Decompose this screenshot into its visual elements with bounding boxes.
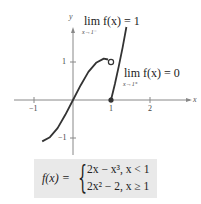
closed-dot-point — [108, 97, 113, 102]
y-axis-label: y — [69, 12, 73, 21]
x-axis-label: x — [193, 95, 197, 104]
x-tick-label-neg1: −1 — [29, 104, 38, 113]
left-brace-icon: { — [78, 161, 87, 193]
formula-lhs: f(x) = — [42, 171, 70, 186]
formula-case-1: 2x − x³, x < 1 — [87, 163, 149, 175]
x-axis-arrow-icon — [186, 98, 192, 102]
y-tick-label-1: 1 — [62, 57, 66, 66]
x-tick-label-2: 2 — [148, 104, 152, 113]
left-limit-subscript: x→1⁻ — [82, 28, 97, 35]
right-limit-label: lim f(x) = 0 — [124, 66, 180, 81]
x-tick-label-1: 1 — [109, 104, 113, 113]
y-axis-arrow-icon — [71, 27, 75, 33]
y-tick-label-neg1: −1 — [58, 133, 67, 142]
right-limit-subscript: x→1⁺ — [123, 80, 138, 87]
open-circle-point — [108, 59, 113, 64]
left-limit-label: lim f(x) = 1 — [84, 14, 140, 29]
piecewise-formula-box: f(x) = { 2x − x³, x < 1 2x² − 2, x ≥ 1 — [34, 159, 157, 198]
formula-case-2: 2x² − 2, x ≥ 1 — [87, 180, 149, 192]
